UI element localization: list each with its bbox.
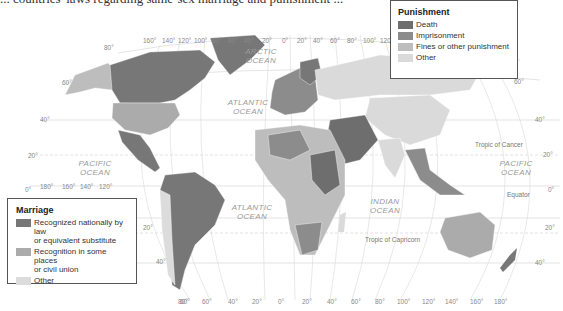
svg-text:120°: 120° [99, 183, 113, 190]
svg-text:60°: 60° [351, 298, 361, 305]
svg-text:0°: 0° [278, 298, 285, 305]
ocean-atlantic-n-2: OCEAN [233, 107, 263, 116]
svg-text:20°: 20° [297, 37, 307, 44]
tropic-capricorn-label: Tropic of Capricorn [365, 236, 420, 244]
legend-item-marriage-other: Other [16, 276, 128, 285]
svg-text:20°: 20° [302, 298, 312, 305]
ocean-arctic-1: ARCTIC [244, 47, 277, 56]
svg-text:180°: 180° [40, 183, 54, 190]
svg-text:140°: 140° [445, 298, 459, 305]
tropic-cancer-label: Tropic of Cancer [475, 141, 524, 149]
svg-text:40°: 40° [156, 258, 166, 265]
ocean-atlantic-s-1: ATLANTIC [231, 203, 272, 212]
svg-text:60°: 60° [202, 298, 212, 305]
legend-punishment: Punishment Death Imprisonment Fines or o… [390, 0, 518, 79]
svg-text:20°: 20° [143, 224, 153, 231]
longitude-bottom-labels: 80° 60° 40° 20° 0° 20° 40° 60° 80° 100° … [178, 298, 508, 305]
svg-text:60°: 60° [62, 79, 72, 86]
region-new-zealand [500, 248, 517, 272]
ocean-indian-1: INDIAN [371, 197, 400, 206]
svg-text:40°: 40° [313, 37, 323, 44]
region-madagascar [338, 212, 346, 232]
svg-text:40°: 40° [535, 259, 545, 266]
svg-text:120°: 120° [178, 37, 192, 44]
svg-text:0°: 0° [282, 37, 289, 44]
ocean-atlantic-n-1: ATLANTIC [227, 98, 268, 107]
svg-text:0°: 0° [25, 186, 32, 193]
swatch-marriage-other [16, 277, 31, 285]
swatch-some-places [16, 248, 31, 256]
svg-text:60°: 60° [228, 37, 238, 44]
svg-text:120°: 120° [422, 298, 436, 305]
svg-text:0°: 0° [548, 186, 555, 193]
svg-text:80°: 80° [104, 44, 114, 51]
svg-text:20°: 20° [28, 152, 38, 159]
svg-text:80°: 80° [212, 37, 222, 44]
legend-item-recognized: Recognized nationally by lawor equivalen… [16, 218, 128, 245]
legend-item-some-places: Recognition in some placesor civil union [16, 247, 128, 274]
svg-text:60°: 60° [514, 78, 524, 85]
swatch-death [398, 21, 413, 29]
ocean-arctic-2: OCEAN [246, 56, 276, 65]
legend-item-fines: Fines or other punishment [398, 42, 510, 51]
svg-text:160°: 160° [470, 298, 484, 305]
svg-text:40°: 40° [228, 298, 238, 305]
svg-text:20°: 20° [262, 37, 272, 44]
svg-text:20°: 20° [545, 224, 555, 231]
svg-text:40°: 40° [535, 116, 545, 123]
legend-marriage: Marriage Recognized nationally by lawor … [7, 198, 137, 284]
swatch-imprisonment [398, 32, 413, 40]
legend-item-other: Other [398, 53, 510, 62]
svg-text:80°: 80° [347, 37, 357, 44]
legend-item-imprisonment: Imprisonment [398, 31, 510, 40]
swatch-other [398, 54, 413, 62]
legend-item-death: Death [398, 20, 510, 29]
swatch-fines [398, 43, 413, 51]
svg-text:160°: 160° [143, 37, 157, 44]
svg-text:40°: 40° [244, 37, 254, 44]
svg-text:40°: 40° [40, 116, 50, 123]
svg-text:100°: 100° [194, 37, 208, 44]
region-mexico [118, 130, 160, 172]
svg-text:160°: 160° [62, 183, 76, 190]
region-canada [110, 50, 215, 103]
ocean-pacific-e-2: OCEAN [501, 168, 531, 177]
svg-text:80°: 80° [375, 298, 385, 305]
region-australia [440, 212, 495, 258]
svg-text:140°: 140° [162, 37, 176, 44]
svg-text:100°: 100° [397, 298, 411, 305]
swatch-recognized [16, 219, 31, 227]
longitude-left-labels: 180° 160° 140° 120° [40, 183, 113, 190]
ocean-atlantic-s-2: OCEAN [237, 212, 267, 221]
legend-punishment-title: Punishment [398, 7, 510, 17]
svg-text:20°: 20° [543, 151, 553, 158]
longitude-top-labels: 160° 140° 120° 100° 80° 60° 40° 20° 0° 2… [143, 37, 394, 44]
svg-text:140°: 140° [80, 183, 94, 190]
svg-text:100°: 100° [363, 37, 377, 44]
svg-text:60°: 60° [330, 37, 340, 44]
ocean-pacific-w-1: PACIFIC [78, 159, 111, 168]
region-india [378, 138, 405, 178]
region-alaska [65, 63, 115, 95]
svg-text:40°: 40° [327, 298, 337, 305]
region-china [365, 95, 450, 145]
ocean-pacific-w-2: OCEAN [80, 168, 110, 177]
ocean-indian-2: OCEAN [370, 206, 400, 215]
equator-label: Equator [507, 191, 531, 199]
legend-marriage-title: Marriage [16, 205, 128, 215]
svg-text:180°: 180° [494, 298, 508, 305]
ocean-pacific-e-1: PACIFIC [499, 159, 532, 168]
svg-text:60°: 60° [180, 298, 190, 305]
svg-text:20°: 20° [252, 298, 262, 305]
